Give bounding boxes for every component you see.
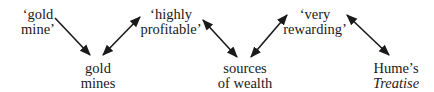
node-line: Hume’s xyxy=(366,61,426,76)
node-line: ‘very xyxy=(280,7,350,22)
node-line: ‘gold xyxy=(18,7,58,22)
diagram: ‘gold mine’ gold mines ‘highly profitabl… xyxy=(0,0,434,92)
node-line: of wealth xyxy=(210,76,280,91)
node-line: mine’ xyxy=(18,22,58,37)
node-line: rewarding’ xyxy=(280,22,350,37)
node-line: ‘highly xyxy=(136,7,206,22)
node-sources-of-wealth: sources of wealth xyxy=(210,61,280,91)
node-line-italic: Treatise xyxy=(366,76,426,91)
arrow-gold-mines-highly-profitable xyxy=(103,17,140,55)
arrow-gold-mine-to-gold-mines xyxy=(55,18,90,55)
node-gold-mine-quote: ‘gold mine’ xyxy=(18,7,58,37)
node-humes-treatise: Hume’s Treatise xyxy=(366,61,426,91)
arrow-very-rewarding-humes-treatise xyxy=(347,15,389,55)
node-very-rewarding: ‘very rewarding’ xyxy=(280,7,350,37)
node-line: gold xyxy=(78,61,118,76)
node-gold-mines: gold mines xyxy=(78,61,118,91)
node-line: profitable’ xyxy=(136,22,206,37)
node-highly-profitable: ‘highly profitable’ xyxy=(136,7,206,37)
arrow-highly-profitable-sources-of-wealth xyxy=(203,20,237,57)
node-line: mines xyxy=(78,76,118,91)
node-line: sources xyxy=(210,61,280,76)
